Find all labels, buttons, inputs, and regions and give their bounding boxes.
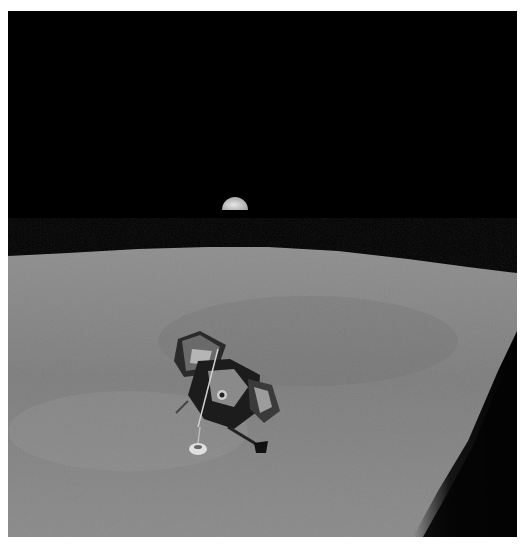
- photo-scene: [8, 11, 517, 537]
- photograph: [8, 11, 517, 537]
